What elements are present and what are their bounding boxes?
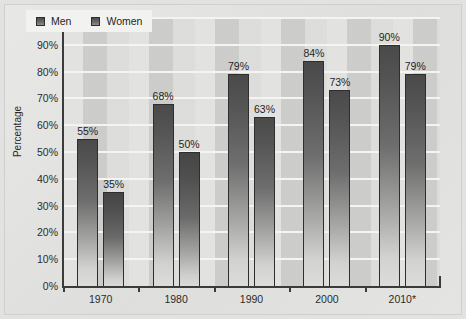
bar-value-label: 79%	[217, 60, 261, 72]
x-category-label: 1980	[141, 293, 211, 305]
bar-value-label: 35%	[92, 178, 136, 190]
legend-swatch-men-icon	[36, 17, 45, 26]
legend-swatch-women-icon	[91, 17, 100, 26]
y-tick-label: 0%	[14, 280, 58, 292]
y-tick-label: 10%	[14, 253, 58, 265]
y-tick-label: 20%	[14, 226, 58, 238]
x-category-label: 2010*	[367, 293, 437, 305]
bar-value-label: 50%	[167, 138, 211, 150]
bar-value-label: 84%	[292, 47, 336, 59]
x-category-label: 2000	[292, 293, 362, 305]
y-axis-title: Percentage	[12, 87, 23, 177]
y-tick-label: 30%	[14, 200, 58, 212]
legend-label-men: Men	[51, 15, 71, 27]
y-tick-label: 90%	[14, 39, 58, 51]
bar-value-label: 73%	[318, 76, 362, 88]
y-tick-label: 80%	[14, 66, 58, 78]
bar-value-label: 63%	[243, 103, 287, 115]
chart-figure: 0%10%20%30%40%50%60%70%80%90%100% Percen…	[0, 0, 466, 319]
chart-legend: Men Women	[26, 10, 152, 32]
x-category-label: 1970	[66, 293, 136, 305]
bar-value-label: 55%	[66, 125, 110, 137]
legend-item-women: Women	[91, 15, 142, 27]
bar-value-label: 90%	[367, 31, 411, 43]
legend-label-women: Women	[106, 15, 142, 27]
bar-value-label: 68%	[141, 90, 185, 102]
y-axis-tick-labels: 0%10%20%30%40%50%60%70%80%90%100%	[0, 0, 466, 319]
legend-item-men: Men	[36, 15, 71, 27]
bar-value-label: 79%	[393, 60, 437, 72]
x-category-label: 1990	[217, 293, 287, 305]
